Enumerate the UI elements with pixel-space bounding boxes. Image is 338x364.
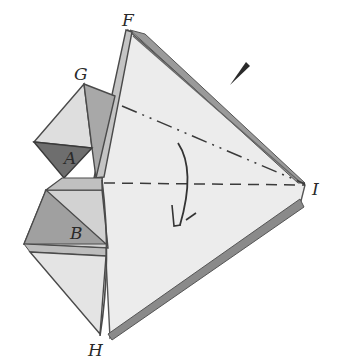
label-f: F	[121, 10, 135, 30]
label-i: I	[311, 179, 319, 199]
pointer-mark-icon	[230, 62, 250, 85]
label-b: B	[69, 223, 83, 243]
origami-diagram: F G A B H I	[0, 0, 338, 364]
label-a: A	[62, 148, 76, 168]
region-a	[34, 142, 92, 178]
label-g: G	[74, 64, 88, 84]
bottom-flap	[30, 252, 106, 334]
label-h: H	[87, 340, 104, 360]
g-flap-light	[34, 84, 92, 148]
